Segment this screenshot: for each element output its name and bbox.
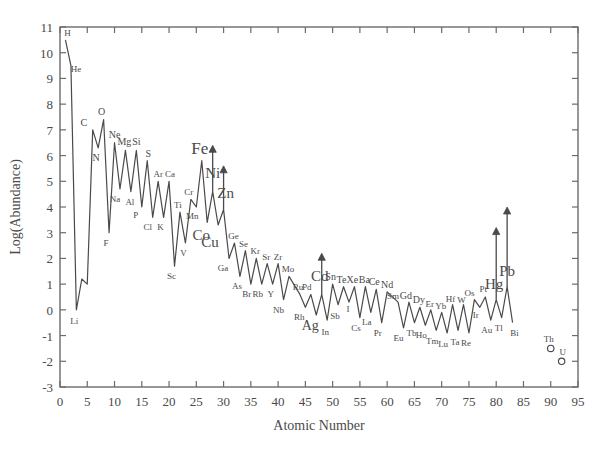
element-label-N: N (93, 152, 100, 163)
element-label-Eu: Eu (394, 333, 404, 343)
element-label-Br: Br (242, 289, 251, 299)
y-tick-label: 7 (47, 123, 54, 138)
y-tick-label: 2 (47, 251, 54, 266)
element-label-Ti: Ti (174, 200, 182, 210)
isolated-point-Th (548, 345, 554, 351)
element-label-Cr: Cr (184, 187, 193, 197)
element-label-Ni: Ni (205, 165, 220, 181)
element-label-Lu: Lu (438, 339, 448, 349)
x-tick-label: 40 (272, 394, 285, 409)
element-label-Cs: Cs (351, 323, 361, 333)
element-label-Tm: Tm (426, 336, 439, 346)
element-label-F: F (104, 238, 109, 248)
element-label-Sb: Sb (330, 311, 340, 321)
abundance-line (65, 40, 512, 333)
y-tick-label: 0 (47, 303, 54, 318)
element-label-Tl: Tl (495, 323, 503, 333)
arrowhead-Pb (504, 207, 511, 214)
element-label-Ce: Ce (369, 276, 381, 287)
arrowhead-Zn (220, 166, 227, 173)
y-tick-label: 1 (47, 277, 54, 292)
element-label-Re: Re (461, 338, 471, 348)
y-tick-label: 3 (47, 226, 54, 241)
element-label-Se: Se (239, 239, 248, 249)
element-label-Zn: Zn (217, 185, 234, 201)
plot-frame (60, 27, 578, 387)
x-tick-label: 70 (435, 394, 448, 409)
x-tick-label: 95 (572, 394, 585, 409)
element-label-Pr: Pr (374, 328, 382, 338)
element-label-S: S (145, 148, 151, 159)
y-axis-label: Log(Abundance) (8, 159, 24, 255)
x-tick-label: 80 (490, 394, 503, 409)
element-label-Ca: Ca (165, 169, 175, 179)
element-label-Cu: Cu (201, 234, 219, 250)
x-tick-label: 25 (190, 394, 203, 409)
element-label-Sn: Sn (325, 271, 336, 282)
x-tick-label: 15 (135, 394, 148, 409)
arrowhead-Hg (493, 228, 500, 235)
element-label-Y: Y (267, 289, 274, 299)
element-label-Bi: Bi (510, 328, 519, 338)
element-label-Fe: Fe (191, 139, 208, 158)
x-tick-label: 5 (84, 394, 91, 409)
element-label-P: P (133, 210, 138, 220)
y-tick-label: 4 (47, 200, 54, 215)
element-label-Te: Te (337, 274, 347, 285)
element-label-I: I (346, 304, 349, 314)
y-tick-label: 9 (47, 71, 54, 86)
x-tick-label: 45 (299, 394, 312, 409)
y-tick-label: 6 (47, 149, 54, 164)
element-label-Xe: Xe (347, 274, 359, 285)
element-label-Ga: Ga (218, 263, 229, 273)
element-label-In: In (321, 327, 329, 337)
element-label-He: He (71, 64, 82, 74)
element-label-Nb: Nb (273, 305, 284, 315)
y-tick-label: -3 (42, 380, 53, 395)
chart-root: 05101520253035404550556065707580859095At… (0, 0, 607, 450)
y-tick-label: -1 (42, 329, 53, 344)
element-label-Zr: Zr (274, 252, 283, 262)
element-label-H: H (64, 28, 71, 38)
element-label-Th: Th (544, 334, 554, 344)
arrowhead-Ni (209, 145, 216, 152)
x-tick-label: 65 (408, 394, 421, 409)
x-tick-label: 50 (326, 394, 339, 409)
arrowhead-Cd (318, 253, 325, 260)
element-label-Mn: Mn (186, 211, 199, 221)
isolated-point-U (558, 358, 564, 364)
element-label-Os: Os (464, 288, 474, 298)
x-tick-label: 20 (163, 394, 176, 409)
y-tick-label: 10 (40, 46, 53, 61)
x-tick-label: 35 (244, 394, 257, 409)
element-label-V: V (180, 248, 187, 258)
element-label-Mo: Mo (282, 264, 295, 274)
element-label-Ar: Ar (153, 169, 163, 179)
element-label-Sc: Sc (167, 271, 176, 281)
element-label-Nd: Nd (381, 279, 393, 290)
x-tick-label: 85 (517, 394, 530, 409)
element-label-Na: Na (110, 194, 121, 204)
element-label-O: O (98, 106, 105, 117)
element-label-Ir: Ir (473, 310, 479, 320)
element-label-As: As (232, 281, 242, 291)
element-label-Sr: Sr (262, 252, 270, 262)
element-label-Mg: Mg (117, 136, 131, 147)
abundance-chart: 05101520253035404550556065707580859095At… (0, 0, 607, 450)
x-axis-label: Atomic Number (273, 418, 365, 433)
y-tick-label: -2 (42, 354, 53, 369)
x-tick-label: 10 (108, 394, 121, 409)
element-label-Hf: Hf (446, 294, 456, 304)
element-label-Kr: Kr (251, 246, 261, 256)
element-label-Sm: Sm (387, 291, 399, 301)
element-label-K: K (157, 222, 164, 232)
element-label-Ge: Ge (228, 231, 239, 241)
element-label-C: C (80, 117, 87, 128)
x-tick-label: 0 (57, 394, 64, 409)
element-label-Si: Si (132, 136, 141, 147)
element-label-Ag: Ag (302, 318, 319, 333)
element-label-Pb: Pb (499, 263, 515, 279)
element-label-La: La (362, 317, 372, 327)
element-label-Al: Al (125, 197, 134, 207)
y-tick-label: 11 (40, 20, 53, 35)
